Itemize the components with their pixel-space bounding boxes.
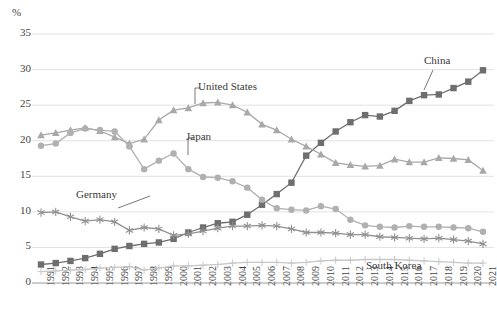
series-united-states — [37, 98, 487, 173]
series-china — [38, 67, 486, 268]
series-japan — [38, 125, 486, 235]
series-label-japan: Japan — [186, 130, 211, 142]
series-label-germany: Germany — [76, 188, 117, 200]
chart-container: % 05101520253035 19911992199319941995199… — [0, 0, 497, 321]
annotation-leaders — [118, 70, 433, 208]
series-label-china: China — [424, 54, 450, 66]
series-germany — [37, 208, 486, 248]
series-label-south-korea: South Korea — [366, 259, 421, 271]
series-label-united-states: United States — [198, 80, 257, 92]
gridlines — [32, 34, 494, 283]
plot-area — [0, 0, 497, 321]
